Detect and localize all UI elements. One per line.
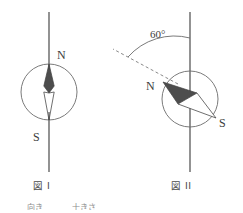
figure-2-label-south: S [219, 116, 226, 130]
figure-2-caption: 図 II [171, 178, 192, 192]
figure-1-caption: 図 I [33, 178, 50, 192]
figure-2-group: N S 60° [113, 12, 226, 172]
figure-2-label-north: N [146, 79, 155, 93]
figure-1-group: N S [21, 12, 77, 172]
figure-1-needle-north [44, 64, 54, 93]
diagram-canvas: N S N S 60° 図 I 図 II 向き 十きさ [0, 0, 243, 213]
figure-2-angle-label: 60° [150, 28, 165, 40]
figure-1-label-south: S [33, 130, 40, 144]
footer-text-fragment-left: 向き [27, 203, 43, 210]
figure-1-label-north: N [57, 48, 66, 62]
footer-text-fragment-right: 十きさ [72, 203, 96, 210]
